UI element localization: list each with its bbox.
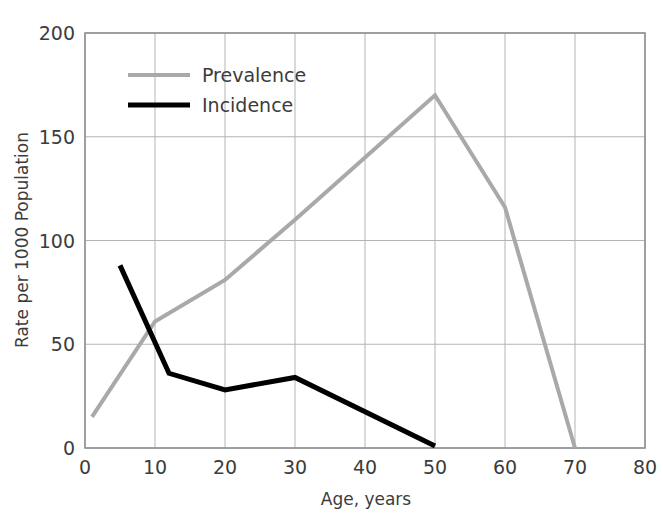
chart-figure: 01020304050607080 050100150200 Age, year…	[0, 0, 663, 516]
x-tick-label: 0	[79, 456, 91, 478]
x-axis-title: Age, years	[321, 489, 412, 509]
y-tick-label: 150	[39, 126, 75, 148]
line-chart: 01020304050607080 050100150200 Age, year…	[0, 0, 663, 516]
x-tick-label: 70	[563, 456, 587, 478]
x-tick-label: 40	[353, 456, 377, 478]
x-tick-label: 60	[493, 456, 517, 478]
x-axis-tick-labels: 01020304050607080	[79, 456, 657, 478]
y-axis-title: Rate per 1000 Population	[12, 132, 32, 348]
y-tick-label: 200	[39, 22, 75, 44]
legend-label-incidence: Incidence	[202, 94, 293, 116]
x-tick-label: 30	[283, 456, 307, 478]
y-tick-label: 0	[63, 437, 75, 459]
y-tick-label: 100	[39, 230, 75, 252]
x-tick-label: 10	[143, 456, 167, 478]
x-tick-label: 20	[213, 456, 237, 478]
x-tick-label: 50	[423, 456, 447, 478]
y-tick-label: 50	[51, 333, 75, 355]
chart-background	[0, 0, 663, 516]
x-tick-label: 80	[633, 456, 657, 478]
legend-label-prevalence: Prevalence	[202, 64, 306, 86]
